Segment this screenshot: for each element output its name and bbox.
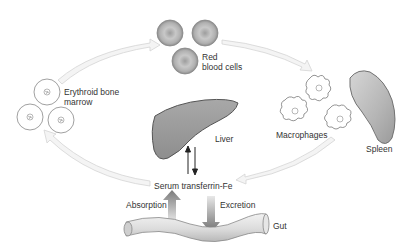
macrophages (280, 75, 351, 129)
label-rbc-line2: blood cells (202, 62, 242, 72)
spleen-organ (350, 71, 395, 144)
label-spleen: Spleen (366, 144, 392, 154)
liver-serum-arrows (186, 146, 198, 175)
label-rbc-line1: Red (202, 52, 218, 62)
label-gut: Gut (273, 221, 287, 231)
gut-organ (124, 214, 269, 242)
label-absorption: Absorption (126, 200, 167, 210)
label-erythroid-line2: marrow (64, 97, 92, 107)
label-macrophages: Macrophages (276, 130, 328, 140)
label-liver: Liver (215, 134, 233, 144)
label-excretion: Excretion (220, 200, 255, 210)
label-erythroid-line1: Erythroid bone (64, 87, 119, 97)
arrow-marrow-to-rbc (58, 39, 160, 84)
iron-cycle-diagram (0, 0, 406, 249)
label-serum-transferrin: Serum transferrin-Fe (154, 181, 232, 191)
arrow-macrophages-to-serum (236, 137, 335, 184)
arrow-serum-to-marrow (44, 130, 150, 186)
